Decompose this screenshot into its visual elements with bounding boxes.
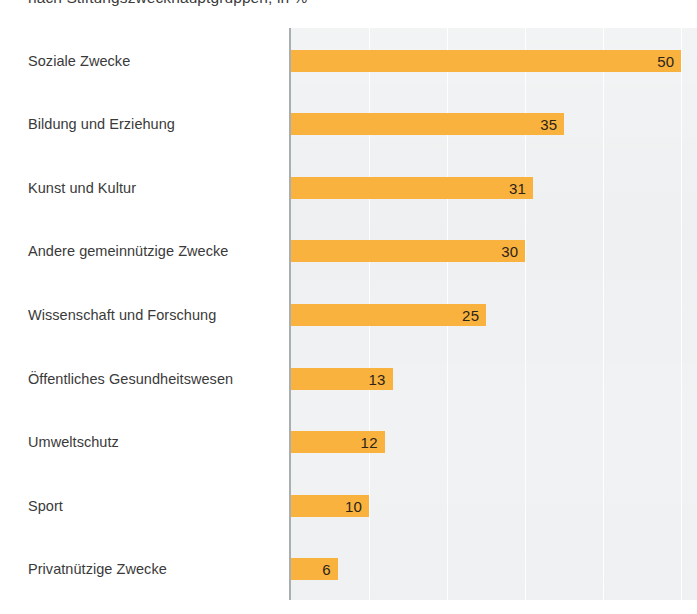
bar-value-label: 12 <box>361 434 378 451</box>
bar-row: Öffentliches Gesundheitswesen13 <box>0 368 697 390</box>
bar-row: Privatnützige Zwecke6 <box>0 558 697 580</box>
bar-row: Wissenschaft und Forschung25 <box>0 304 697 326</box>
bar-chart: nach Stiftungszweckhauptgruppen, in % So… <box>0 0 697 614</box>
bar-value-label: 25 <box>462 307 479 324</box>
bar-row: Sport10 <box>0 495 697 517</box>
bar-value-label: 31 <box>509 179 526 196</box>
category-label: Privatnützige Zwecke <box>28 561 167 577</box>
bar-row: Soziale Zwecke50 <box>0 50 697 72</box>
bar-value-label: 6 <box>322 561 331 578</box>
bar: 13 <box>291 368 393 390</box>
bar-row: Andere gemeinnützige Zwecke30 <box>0 240 697 262</box>
bar: 31 <box>291 177 533 199</box>
bar-value-label: 30 <box>501 243 518 260</box>
bar: 10 <box>291 495 369 517</box>
bar-value-label: 13 <box>368 370 385 387</box>
category-label: Soziale Zwecke <box>28 53 130 69</box>
bar-row: Kunst und Kultur31 <box>0 177 697 199</box>
bar-rows: Soziale Zwecke50Bildung und Erziehung35K… <box>0 0 697 614</box>
bar-value-label: 10 <box>345 497 362 514</box>
bar: 6 <box>291 558 338 580</box>
bar: 12 <box>291 431 385 453</box>
bar: 25 <box>291 304 486 326</box>
category-label: Andere gemeinnützige Zwecke <box>28 243 228 259</box>
category-label: Umweltschutz <box>28 434 119 450</box>
category-label: Sport <box>28 498 63 514</box>
category-label: Bildung und Erziehung <box>28 116 175 132</box>
bar-row: Umweltschutz12 <box>0 431 697 453</box>
category-label: Wissenschaft und Forschung <box>28 307 216 323</box>
category-label: Kunst und Kultur <box>28 180 136 196</box>
bar-row: Bildung und Erziehung35 <box>0 113 697 135</box>
bar: 50 <box>291 50 681 72</box>
bar-value-label: 50 <box>657 52 674 69</box>
bar: 35 <box>291 113 564 135</box>
bar-value-label: 35 <box>540 116 557 133</box>
category-label: Öffentliches Gesundheitswesen <box>28 371 233 387</box>
bar: 30 <box>291 240 525 262</box>
